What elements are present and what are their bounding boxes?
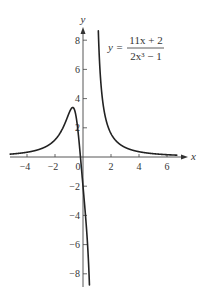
y-axis-arrow-icon [81, 27, 86, 34]
y-tick-label: −8 [69, 268, 80, 279]
y-tick-label: −6 [69, 239, 80, 250]
y-tick-label: 6 [75, 64, 80, 75]
equation-numerator: 11x + 2 [129, 34, 162, 46]
y-axis: y 8642−2−4−6−8 [69, 13, 87, 287]
y-tick-label: 8 [75, 35, 80, 46]
equation-lhs: y = [107, 41, 123, 53]
x-tick-label: −4 [20, 161, 31, 172]
x-axis-label: x [190, 150, 196, 162]
x-tick-label: 0 [76, 161, 81, 172]
x-tick-label: 6 [165, 161, 170, 172]
x-tick-label: 2 [109, 161, 114, 172]
function-plot: x −4−20246 y 8642−2−4−6−8 y = 11x + 2 2x… [0, 0, 209, 295]
x-axis-arrow-icon [181, 155, 188, 160]
x-tick-label: −2 [48, 161, 59, 172]
x-tick-label: 4 [137, 161, 142, 172]
y-tick-label: −4 [69, 210, 80, 221]
equation-denominator: 2x³ − 1 [130, 50, 162, 62]
x-axis: x −4−20246 [10, 150, 196, 172]
y-tick-label: −2 [69, 181, 80, 192]
curve-left-branch [10, 107, 89, 285]
equation-annotation: y = 11x + 2 2x³ − 1 [107, 34, 164, 62]
y-tick-label: 4 [75, 93, 80, 104]
y-axis-label: y [80, 13, 86, 25]
